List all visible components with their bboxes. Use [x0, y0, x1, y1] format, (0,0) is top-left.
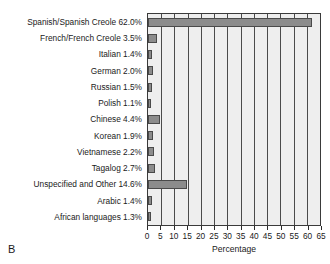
tick-label: 45	[263, 231, 272, 242]
bar-row	[148, 209, 320, 225]
bar-row	[148, 79, 320, 95]
tick-mark	[201, 226, 202, 230]
tick-label: 25	[209, 231, 218, 242]
tick-label: 55	[290, 231, 299, 242]
bar-row	[148, 95, 320, 111]
category-label: African languages 1.3%	[0, 209, 145, 225]
bar-series	[148, 14, 320, 225]
tick-label: 50	[276, 231, 285, 242]
tick-mark	[147, 226, 148, 230]
bar	[148, 18, 312, 27]
tick-label: 30	[223, 231, 232, 242]
tick-mark	[214, 226, 215, 230]
tick-mark	[174, 226, 175, 230]
category-label: Unspecified and Other 14.6%	[0, 176, 145, 192]
tick-label: 20	[196, 231, 205, 242]
tick-mark	[294, 226, 295, 230]
category-label: Chinese 4.4%	[0, 111, 145, 127]
bar	[148, 196, 152, 205]
tick-label: 35	[236, 231, 245, 242]
bar-row	[148, 30, 320, 46]
tick-label: 10	[169, 231, 178, 242]
bar	[148, 180, 187, 189]
bar-row	[148, 63, 320, 79]
tick-mark	[281, 226, 282, 230]
category-label: Korean 1.9%	[0, 128, 145, 144]
tick-label: 60	[303, 231, 312, 242]
bar	[148, 212, 151, 221]
category-label: Russian 1.5%	[0, 79, 145, 95]
bar	[148, 99, 151, 108]
category-label: French/French Creole 3.5%	[0, 30, 145, 46]
tick-mark	[241, 226, 242, 230]
bar	[148, 34, 157, 43]
tick-mark	[187, 226, 188, 230]
bar-row	[148, 46, 320, 62]
bar-row	[148, 193, 320, 209]
category-label: Spanish/Spanish Creole 62.0%	[0, 14, 145, 30]
bar	[148, 147, 154, 156]
bar-row	[148, 14, 320, 30]
bar	[148, 131, 153, 140]
bar-row	[148, 128, 320, 144]
category-label: Tagalog 2.7%	[0, 160, 145, 176]
figure-panel-b: Spanish/Spanish Creole 62.0%French/Frenc…	[0, 0, 330, 264]
x-axis-tick-labels: 05101520253035404550556065	[147, 231, 321, 242]
category-label: Vietnamese 2.2%	[0, 144, 145, 160]
bar-row	[148, 144, 320, 160]
tick-label: 0	[145, 231, 150, 242]
tick-mark	[254, 226, 255, 230]
category-label: Polish 1.1%	[0, 95, 145, 111]
tick-label: 65	[316, 231, 325, 242]
category-label: Arabic 1.4%	[0, 193, 145, 209]
tick-mark	[267, 226, 268, 230]
plot-area	[147, 13, 321, 226]
x-axis-title: Percentage	[147, 244, 321, 254]
panel-letter: B	[8, 243, 15, 255]
bar	[148, 83, 152, 92]
tick-label: 40	[249, 231, 258, 242]
category-label: Italian 1.4%	[0, 46, 145, 62]
category-label: German 2.0%	[0, 63, 145, 79]
bar	[148, 115, 160, 124]
category-label-axis: Spanish/Spanish Creole 62.0%French/Frenc…	[0, 14, 145, 225]
bar	[148, 164, 155, 173]
tick-label: 5	[158, 231, 163, 242]
tick-mark	[160, 226, 161, 230]
bar	[148, 66, 153, 75]
bar-row	[148, 176, 320, 192]
bar-row	[148, 160, 320, 176]
tick-mark	[308, 226, 309, 230]
bar-row	[148, 111, 320, 127]
tick-label: 15	[183, 231, 192, 242]
tick-mark	[227, 226, 228, 230]
tick-mark	[321, 226, 322, 230]
bar	[148, 50, 152, 59]
